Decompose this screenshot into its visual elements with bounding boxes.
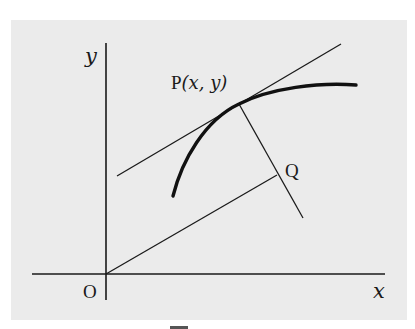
point-p-coords: (x, y) bbox=[182, 72, 228, 93]
figure-stage: y x O Q P(x, y) bbox=[0, 0, 415, 329]
point-q-label: Q bbox=[285, 161, 299, 180]
point-p-name: P bbox=[171, 72, 182, 93]
y-axis-label: y bbox=[85, 46, 97, 67]
point-p-label: P(x, y) bbox=[171, 73, 227, 92]
x-axis-label: x bbox=[373, 281, 385, 302]
origin-label: O bbox=[83, 282, 97, 301]
diagram-canvas bbox=[0, 0, 415, 329]
segment-oq bbox=[106, 175, 277, 274]
curve bbox=[173, 84, 356, 196]
